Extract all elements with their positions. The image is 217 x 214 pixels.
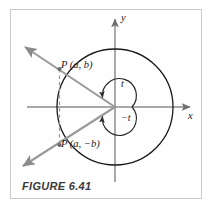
y-axis-label: y	[121, 13, 126, 24]
x-axis-label: x	[188, 111, 193, 122]
figure-container: P (a, b) P (a, −b) y x t −t FIGURE 6.41	[0, 0, 217, 214]
point-label-upper: P (a, b)	[61, 60, 93, 71]
figure-caption: FIGURE 6.41	[22, 180, 91, 192]
ray-to-point-lower	[23, 107, 115, 166]
angle-label-positive: t	[121, 79, 124, 89]
angle-label-negative: −t	[121, 113, 131, 123]
ray-to-point-upper	[25, 47, 115, 107]
point-label-lower: P (a, −b)	[61, 139, 100, 150]
